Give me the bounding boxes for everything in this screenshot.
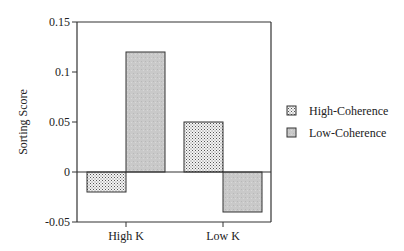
ytick-label: 0.1 [55, 65, 70, 79]
bar-lowk-lowcoherence [223, 172, 262, 212]
bar-highk-lowcoherence [126, 52, 165, 172]
x-axis-ticks [126, 222, 223, 227]
ytick-label: 0 [64, 165, 70, 179]
ytick-label: 0.05 [49, 115, 70, 129]
bar-highk-highcoherence [87, 172, 126, 192]
y-axis-ticks [72, 22, 77, 222]
y-axis-title: Sorting Score [16, 89, 30, 155]
xtick-label-high-k: High K [108, 229, 144, 243]
chart-canvas: 0.15 0.1 0.05 0 -0.05 High K Low K Sorti… [0, 0, 404, 251]
xtick-label-low-k: Low K [206, 229, 240, 243]
legend-label-low-coherence: Low-Coherence [309, 126, 386, 140]
ytick-label: -0.05 [45, 215, 70, 229]
bars [87, 52, 262, 212]
bar-lowk-highcoherence [184, 122, 223, 172]
legend-swatch-high-coherence [287, 106, 296, 115]
y-axis-labels: 0.15 0.1 0.05 0 -0.05 [45, 15, 70, 229]
legend-label-high-coherence: High-Coherence [309, 104, 388, 118]
legend: High-Coherence Low-Coherence [287, 104, 388, 140]
ytick-label: 0.15 [49, 15, 70, 29]
legend-swatch-low-coherence [287, 128, 296, 137]
